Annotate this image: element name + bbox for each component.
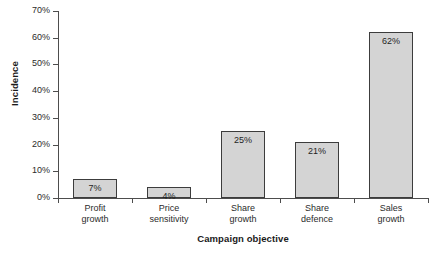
y-axis-title: Incidence — [9, 44, 20, 124]
category-label-line: growth — [58, 214, 132, 225]
y-axis-tick-label: 30% — [10, 113, 50, 122]
y-axis-tick — [53, 118, 58, 119]
y-axis-tick — [53, 171, 58, 172]
y-axis-tick-label: 50% — [10, 59, 50, 68]
category-label-line: growth — [354, 214, 428, 225]
bar: 4% — [147, 187, 191, 198]
x-axis-category-label: Salesgrowth — [354, 203, 428, 225]
bar-chart: Incidence 0%10%20%30%40%50%60%70% 7%4%25… — [0, 0, 443, 260]
y-axis-tick-label: 20% — [10, 140, 50, 149]
category-label-line: growth — [206, 214, 280, 225]
y-axis-tick-label: 60% — [10, 33, 50, 42]
category-label-line: Profit — [58, 203, 132, 214]
y-axis-tick-label: 10% — [10, 166, 50, 175]
bar-value-label: 4% — [148, 191, 190, 201]
category-label-line: Price — [132, 203, 206, 214]
x-axis-category-label: Pricesensitivity — [132, 203, 206, 225]
bar-value-label: 62% — [370, 36, 412, 46]
bar: 25% — [221, 131, 265, 198]
x-axis-title: Campaign objective — [58, 233, 428, 244]
y-axis-tick — [53, 91, 58, 92]
x-axis-category-label: Sharedefence — [280, 203, 354, 225]
x-axis-tick — [428, 198, 429, 203]
category-label-line: Sales — [354, 203, 428, 214]
bar-value-label: 7% — [74, 183, 116, 193]
category-label-line: Share — [280, 203, 354, 214]
y-axis-tick-label: 70% — [10, 6, 50, 15]
y-axis-tick-label: 0% — [10, 193, 50, 202]
category-label-line: sensitivity — [132, 214, 206, 225]
bar: 62% — [369, 32, 413, 198]
bar-value-label: 25% — [222, 135, 264, 145]
x-axis-category-label: Profitgrowth — [58, 203, 132, 225]
y-axis-tick — [53, 64, 58, 65]
x-axis-category-label: Sharegrowth — [206, 203, 280, 225]
category-label-line: defence — [280, 214, 354, 225]
bar-value-label: 21% — [296, 146, 338, 156]
y-axis-line — [58, 11, 59, 199]
y-axis-tick — [53, 145, 58, 146]
bar: 21% — [295, 142, 339, 198]
bar: 7% — [73, 179, 117, 198]
y-axis-tick — [53, 11, 58, 12]
category-label-line: Share — [206, 203, 280, 214]
y-axis-tick-label: 40% — [10, 86, 50, 95]
y-axis-tick — [53, 38, 58, 39]
x-axis-line — [58, 198, 428, 199]
